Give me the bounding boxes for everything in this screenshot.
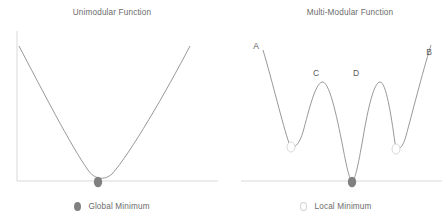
panel-multi-modular: Multi-Modular Function A C D B Local Min…: [224, 0, 448, 222]
label-B: B: [426, 47, 432, 57]
multi-modular-curve: [263, 45, 431, 181]
panel-unimodular: Unimodular Function Global Minimum: [0, 0, 224, 222]
legend-label-local-minimum: Local Minimum: [314, 202, 371, 211]
label-D: D: [353, 68, 359, 78]
global-minimum-marker: [348, 177, 356, 187]
legend-unimodular: Global Minimum: [0, 202, 224, 211]
multi-modular-plot: A C D B: [224, 0, 448, 222]
filled-circle-icon: [74, 202, 81, 211]
local-minimum-marker-right: [392, 144, 400, 154]
legend-multi-modular: Local Minimum: [224, 202, 448, 211]
optimization-figure: Unimodular Function Global Minimum Multi…: [0, 0, 448, 222]
global-minimum-marker: [94, 177, 102, 187]
legend-label-global-minimum: Global Minimum: [88, 202, 149, 211]
open-circle-icon: [300, 202, 307, 211]
unimodular-curve: [19, 46, 190, 178]
label-C: C: [313, 68, 319, 78]
local-minimum-marker-left: [287, 142, 295, 152]
unimodular-plot: [0, 0, 224, 222]
label-A: A: [253, 41, 259, 51]
